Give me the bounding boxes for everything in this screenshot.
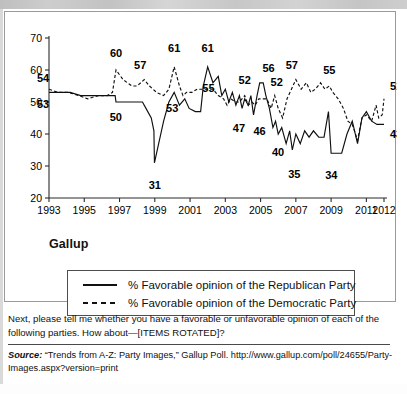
point-label: 55 (202, 82, 214, 94)
point-label: 55 (323, 64, 335, 76)
legend-item-democratic: % Favorable opinion of the Democratic Pa… (68, 294, 354, 312)
svg-text:1999: 1999 (143, 204, 167, 216)
point-label: 50 (110, 111, 122, 123)
svg-text:2007: 2007 (284, 204, 308, 216)
point-label: 46 (253, 125, 265, 137)
svg-text:2009: 2009 (319, 204, 343, 216)
svg-text:1993: 1993 (37, 204, 61, 216)
legend-swatch-solid-line-icon (81, 280, 119, 290)
point-label: 61 (168, 42, 180, 54)
point-label: 40 (272, 146, 284, 158)
y-tick-labels: 203040506070 (30, 32, 42, 204)
point-label: 54 (37, 72, 50, 84)
series-lines (49, 67, 384, 163)
point-label: 47 (233, 122, 245, 134)
chart-svg: 203040506070 199319951997199920012003200… (5, 12, 397, 217)
svg-text:30: 30 (30, 160, 42, 172)
svg-text:20: 20 (30, 192, 42, 204)
point-label: 60 (110, 47, 122, 59)
legend-label-democratic: % Favorable opinion of the Democratic Pa… (128, 297, 356, 309)
svg-text:2001: 2001 (178, 204, 202, 216)
legend-label-republican: % Favorable opinion of the Republican Pa… (128, 279, 356, 291)
data-point-labels: 5453605057316153615552474656524035573455… (37, 42, 397, 191)
source-text: “Trends from A-Z: Party Images,” Gallup … (8, 350, 392, 373)
svg-text:1997: 1997 (108, 204, 132, 216)
chart-legend: % Favorable opinion of the Republican Pa… (67, 270, 355, 316)
point-label: 31 (149, 179, 161, 191)
source-note: Source: “Trends from A-Z: Party Images,”… (8, 349, 400, 375)
source-prefix: Source: (8, 350, 42, 360)
chart-attribution: Gallup (49, 237, 89, 251)
scan-artifact-bar (0, 0, 407, 9)
svg-text:2005: 2005 (249, 204, 273, 216)
point-label: 56 (262, 62, 274, 74)
point-label: 53 (166, 102, 178, 114)
point-label: 52 (239, 74, 251, 86)
svg-text:40: 40 (30, 128, 42, 140)
svg-text:2003: 2003 (214, 204, 238, 216)
point-label: 52 (271, 76, 283, 88)
svg-text:2012: 2012 (372, 204, 396, 216)
point-label: 57 (286, 59, 298, 71)
point-label: 43 (390, 128, 397, 140)
svg-text:70: 70 (30, 32, 42, 44)
page-bottom-edge (0, 384, 407, 394)
survey-question-text: Next, please tell me whether you have a … (8, 312, 398, 339)
legend-swatch-dashed-line-icon (81, 298, 119, 308)
legend-item-republican: % Favorable opinion of the Republican Pa… (68, 276, 354, 294)
point-label: 53 (37, 98, 49, 110)
point-label: 51 (390, 80, 397, 92)
x-tick-labels: 1993199519971999200120032005200720092011… (37, 204, 396, 216)
source-divider (8, 344, 390, 345)
point-label: 57 (134, 59, 146, 71)
line-chart: 203040506070 199319951997199920012003200… (5, 12, 397, 217)
point-label: 35 (288, 168, 300, 180)
point-label: 34 (325, 169, 338, 181)
chart-panel: 203040506070 199319951997199920012003200… (4, 11, 396, 302)
svg-text:1995: 1995 (73, 204, 97, 216)
point-label: 61 (202, 42, 214, 54)
series-path-republican-party (49, 67, 384, 163)
page-left-edge (0, 9, 3, 394)
